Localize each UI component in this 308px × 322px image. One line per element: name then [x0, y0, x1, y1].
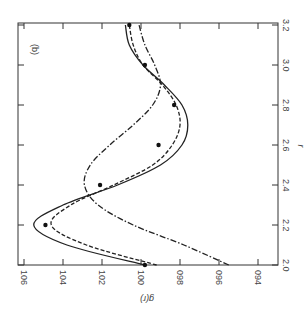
svg-text:2.2: 2.2	[281, 219, 291, 232]
data-point	[98, 183, 102, 187]
data-points	[43, 23, 176, 267]
data-point	[127, 23, 131, 27]
svg-text:096: 096	[214, 270, 224, 285]
x-axis-label: r	[296, 145, 306, 149]
curve-dashed	[51, 25, 180, 265]
curve-solid	[34, 25, 188, 265]
data-point	[143, 63, 147, 67]
svg-text:3.0: 3.0	[281, 59, 291, 72]
svg-text:094: 094	[253, 270, 263, 285]
y-axis-label: g(r)	[140, 294, 154, 304]
svg-text:2.8: 2.8	[281, 99, 291, 112]
data-point	[172, 103, 176, 107]
svg-text:106: 106	[19, 270, 29, 285]
svg-text:2.4: 2.4	[281, 179, 291, 192]
curves	[34, 25, 229, 265]
svg-text:2.0: 2.0	[281, 259, 291, 272]
plot-frame	[18, 23, 278, 265]
svg-text:104: 104	[58, 270, 68, 285]
chart: 106104102100098096094 2.02.22.42.62.83.0…	[0, 0, 308, 322]
svg-text:102: 102	[97, 270, 107, 285]
svg-text:100: 100	[136, 270, 146, 285]
data-point	[156, 143, 160, 147]
panel-label: (b)	[30, 44, 40, 55]
svg-text:3.2: 3.2	[281, 19, 291, 32]
svg-text:2.6: 2.6	[281, 139, 291, 152]
svg-text:098: 098	[175, 270, 185, 285]
data-point	[143, 263, 147, 267]
data-point	[43, 223, 47, 227]
